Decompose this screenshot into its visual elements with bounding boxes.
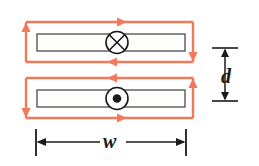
- upper-loop-right-arrow-down: [188, 52, 197, 62]
- dimension-d-label: d: [221, 66, 231, 86]
- dimension-w-arrow-left: [37, 138, 46, 146]
- lower-loop-right-arrow-up: [188, 78, 197, 88]
- current-out-of-page-icon: [106, 88, 128, 110]
- current-into-page-icon: [106, 32, 128, 54]
- dimension-w-arrow-right: [176, 138, 185, 146]
- upper-loop-bottom-arrow-left: [107, 58, 117, 67]
- upper-loop-top-arrow-right: [117, 18, 127, 27]
- lower-loop-left-arrow-down: [21, 108, 30, 118]
- dimension-w-label: w: [103, 131, 116, 151]
- upper-loop-left-arrow-up: [21, 22, 30, 32]
- lower-loop-top-arrow-left: [107, 74, 117, 83]
- dimension-d-arrow-down: [221, 92, 229, 100]
- lower-loop-bottom-arrow-right: [117, 114, 127, 123]
- dimension-d-arrow-up: [221, 49, 229, 57]
